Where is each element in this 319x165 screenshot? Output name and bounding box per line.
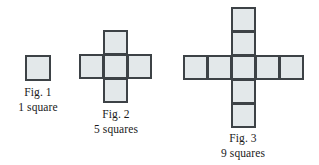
figure-sequence-diagram: Fig. 1 1 square Fig. 2 5 squares F bbox=[0, 0, 319, 165]
fig3-square-0-2 bbox=[183, 55, 208, 80]
fig3-square-2-3 bbox=[231, 79, 256, 104]
fig2-square-2-1 bbox=[127, 54, 152, 79]
fig2-square-0-1 bbox=[79, 54, 104, 79]
fig1-caption-line1: Fig. 1 bbox=[3, 85, 73, 100]
fig3-caption-line2: 9 squares bbox=[207, 146, 279, 161]
fig3-square-3-2 bbox=[255, 55, 280, 80]
fig3-square-2-1 bbox=[231, 31, 256, 56]
fig1-caption: Fig. 1 1 square bbox=[3, 85, 73, 114]
fig2-caption: Fig. 2 5 squares bbox=[80, 107, 152, 136]
fig3-square-2-0 bbox=[231, 7, 256, 32]
fig2-square-1-1 bbox=[103, 54, 128, 79]
fig1-caption-line2: 1 square bbox=[3, 100, 73, 115]
fig2-caption-line1: Fig. 2 bbox=[80, 107, 152, 122]
fig2-square-1-0 bbox=[103, 30, 128, 55]
fig3-square-2-2 bbox=[231, 55, 256, 80]
fig1-square-0-0 bbox=[25, 55, 51, 81]
fig3-square-1-2 bbox=[207, 55, 232, 80]
fig2-square-1-2 bbox=[103, 78, 128, 103]
fig3-square-4-2 bbox=[279, 55, 304, 80]
fig3-caption-line1: Fig. 3 bbox=[207, 131, 279, 146]
fig3-caption: Fig. 3 9 squares bbox=[207, 131, 279, 160]
fig3-square-2-4 bbox=[231, 103, 256, 128]
fig2-caption-line2: 5 squares bbox=[80, 122, 152, 137]
